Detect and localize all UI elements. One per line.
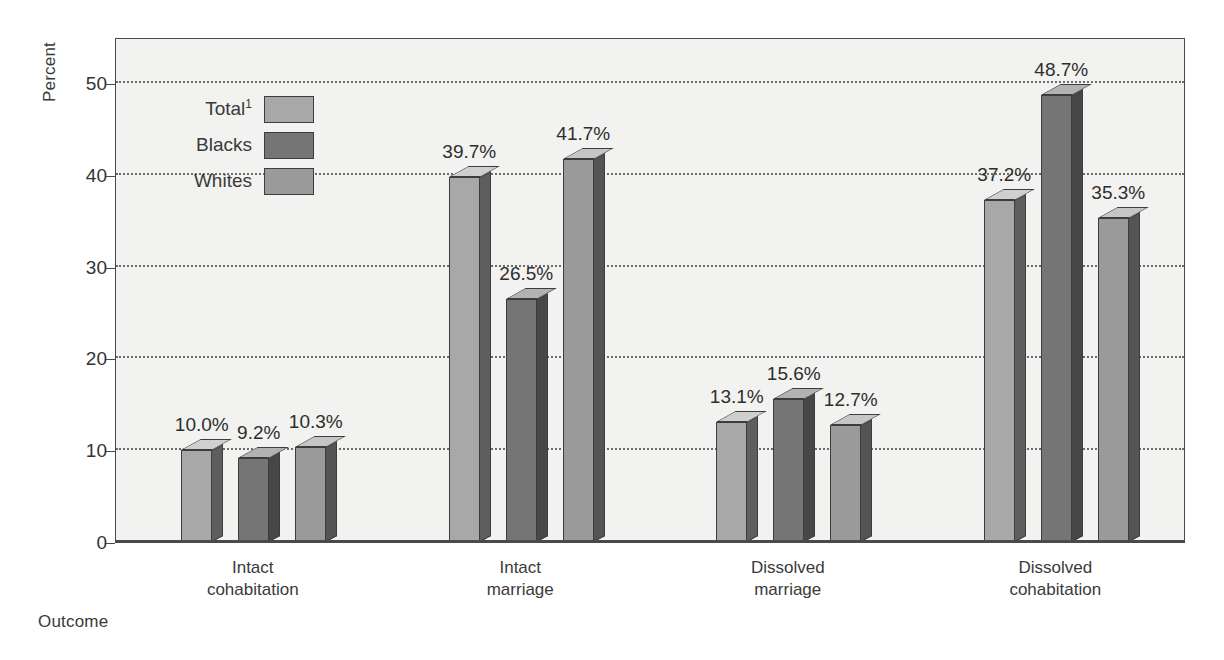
bar-side [804,393,815,542]
bar-blacks-cat3[interactable] [1041,95,1072,542]
x-axis-title: Outcome [38,612,108,632]
category-label-3: Dissolved cohabitation [1009,557,1101,602]
y-tick-label-0: 0 [37,532,107,554]
bar-blacks-cat0[interactable] [238,458,269,542]
bar-whites-cat3[interactable] [1098,218,1129,542]
bar-face [773,399,804,542]
bar-total-cat2[interactable] [716,422,747,542]
bar-side [212,444,223,542]
y-tick-mark-30 [106,268,115,269]
legend-swatch [264,132,314,159]
bar-face [295,447,326,542]
bar-top [830,414,881,425]
bar-top [773,388,824,399]
bar-top [563,148,614,159]
chart-legend: Total1BlacksWhites [156,91,314,199]
bar-value-label: 10.3% [289,411,343,433]
bar-face [181,450,212,542]
bar-whites-cat1[interactable] [563,159,594,542]
legend-item-total[interactable]: Total1 [156,91,314,127]
bar-top [1098,207,1149,218]
bar-face [716,422,747,542]
y-tick-mark-10 [106,451,115,452]
bar-side [747,416,758,542]
legend-item-blacks[interactable]: Blacks [156,127,314,163]
legend-footnote-marker: 1 [245,97,252,111]
category-label-0: Intact cohabitation [207,557,299,602]
bar-value-label: 12.7% [824,389,878,411]
bar-value-label: 41.7% [556,123,610,145]
bar-face [506,299,537,542]
bar-top [295,436,346,447]
bar-top [506,288,557,299]
category-label-2: Dissolved marriage [751,557,825,602]
bar-total-cat3[interactable] [984,200,1015,542]
bar-total-cat1[interactable] [449,177,480,542]
bar-side [269,451,280,542]
y-tick-label-40: 40 [37,165,107,187]
bar-side [326,441,337,542]
legend-swatch [264,96,314,123]
bar-side [861,419,872,542]
bar-top [716,411,767,422]
y-tick-mark-20 [106,359,115,360]
legend-label: Whites [156,170,264,192]
bar-side [1129,212,1140,542]
bar-value-label: 15.6% [767,363,821,385]
bar-face [1041,95,1072,542]
y-tick-mark-40 [106,176,115,177]
bar-top [984,189,1035,200]
bar-value-label: 10.0% [175,414,229,436]
bar-whites-cat2[interactable] [830,425,861,542]
bar-side [1072,89,1083,542]
y-tick-label-30: 30 [37,257,107,279]
plot-area: 10.0%9.2%10.3%39.7%26.5%41.7%13.1%15.6%1… [115,38,1185,543]
bar-face [238,458,269,542]
bar-side [480,171,491,542]
bar-blacks-cat2[interactable] [773,399,804,542]
bar-face [449,177,480,542]
y-tick-label-50: 50 [37,73,107,95]
bar-face [830,425,861,542]
y-tick-label-10: 10 [37,440,107,462]
bar-value-label: 39.7% [442,141,496,163]
bar-top [1041,84,1092,95]
bar-side [1015,194,1026,542]
legend-item-whites[interactable]: Whites [156,163,314,199]
bar-total-cat0[interactable] [181,450,212,542]
bar-blacks-cat1[interactable] [506,299,537,542]
gridline-50 [116,81,1184,83]
bar-side [537,293,548,542]
legend-label: Blacks [156,134,264,156]
y-tick-mark-0 [106,543,115,544]
x-axis-baseline [116,540,1184,542]
bar-face [984,200,1015,542]
y-tick-label-20: 20 [37,348,107,370]
bar-side [594,153,605,542]
bar-value-label: 26.5% [499,263,553,285]
bar-value-label: 37.2% [977,164,1031,186]
bar-face [563,159,594,542]
legend-label: Total1 [156,97,264,120]
bar-chart: Percent Outcome 01020304050 10.0%9.2%10.… [0,0,1224,660]
bar-whites-cat0[interactable] [295,447,326,542]
category-label-1: Intact marriage [487,557,554,602]
bar-face [1098,218,1129,542]
bar-value-label: 35.3% [1091,182,1145,204]
bar-value-label: 13.1% [710,386,764,408]
bar-value-label: 48.7% [1034,59,1088,81]
y-tick-mark-50 [106,84,115,85]
legend-swatch [264,168,314,195]
bar-value-label: 9.2% [237,422,280,444]
